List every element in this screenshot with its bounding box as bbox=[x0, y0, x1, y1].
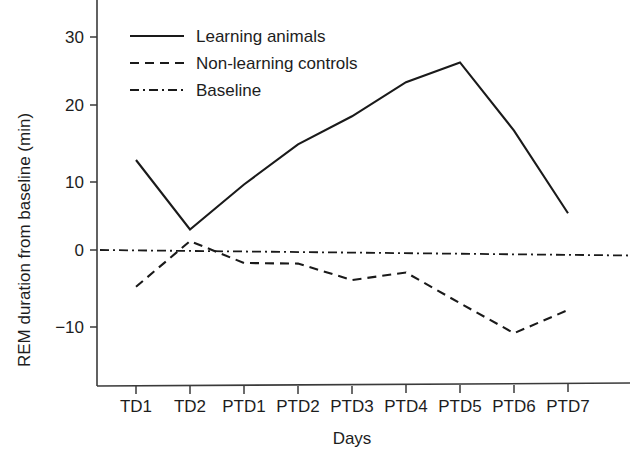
y-tick-marks bbox=[90, 37, 97, 327]
x-tick-label-ptd6: PTD6 bbox=[492, 397, 535, 416]
x-tick-label-td2: TD2 bbox=[174, 397, 206, 416]
y-tick-label-0: 0 bbox=[75, 241, 84, 260]
x-tick-label-ptd3: PTD3 bbox=[330, 397, 373, 416]
y-tick-label-30: 30 bbox=[65, 28, 84, 47]
legend: Learning animals Non-learning controls B… bbox=[130, 27, 358, 100]
x-tick-label-ptd5: PTD5 bbox=[438, 397, 481, 416]
x-axis-title: Days bbox=[333, 429, 372, 448]
x-axis-line bbox=[97, 383, 630, 386]
x-tick-label-ptd1: PTD1 bbox=[222, 397, 265, 416]
x-tick-label-ptd7: PTD7 bbox=[546, 397, 589, 416]
legend-label-non-learning-controls: Non-learning controls bbox=[196, 54, 358, 73]
y-tick-label-minus10: −10 bbox=[55, 318, 84, 337]
rem-duration-line-chart: 30 20 10 0 −10 REM duration from baselin… bbox=[0, 0, 637, 460]
x-tick-label-ptd2: PTD2 bbox=[276, 397, 319, 416]
series-line-baseline bbox=[100, 250, 630, 256]
x-tick-label-ptd4: PTD4 bbox=[384, 397, 427, 416]
y-tick-label-20: 20 bbox=[65, 96, 84, 115]
y-axis-title: REM duration from baseline (min) bbox=[15, 113, 34, 367]
legend-label-baseline: Baseline bbox=[196, 81, 261, 100]
x-tick-label-td1: TD1 bbox=[120, 397, 152, 416]
y-tick-label-10: 10 bbox=[65, 173, 84, 192]
legend-label-learning-animals: Learning animals bbox=[196, 27, 325, 46]
